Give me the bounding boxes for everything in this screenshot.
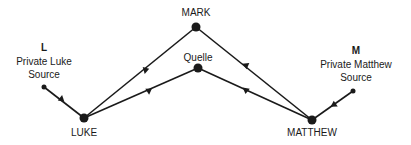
node-l-dot bbox=[42, 85, 47, 90]
node-m-sublabel-line2: Source bbox=[340, 72, 372, 84]
node-matthew-label: MATTHEW bbox=[287, 127, 337, 139]
node-luke-dot bbox=[80, 114, 89, 123]
edge-mark-luke bbox=[84, 27, 196, 118]
node-quelle-label: Quelle bbox=[184, 52, 213, 64]
node-matthew-dot bbox=[308, 116, 317, 125]
node-m-sublabel-line1: Private Matthew bbox=[320, 59, 392, 71]
arrow-mark-matthew-icon bbox=[242, 60, 251, 69]
node-m-label: M bbox=[352, 45, 360, 57]
edge-quelle-luke bbox=[84, 68, 198, 118]
node-mark-dot bbox=[192, 23, 201, 32]
node-quelle-dot bbox=[194, 64, 203, 73]
edge-mark-matthew bbox=[196, 27, 312, 120]
node-luke-label: LUKE bbox=[71, 127, 97, 139]
edge-quelle-matthew bbox=[198, 68, 312, 120]
edge-l-luke bbox=[44, 87, 84, 118]
node-m-dot bbox=[351, 89, 356, 94]
node-l-sublabel-line2: Source bbox=[28, 69, 60, 81]
node-mark-label: MARK bbox=[182, 7, 211, 19]
synoptic-diagram: MARK Quelle L Private Luke Source LUKE M… bbox=[0, 0, 411, 145]
arrow-quelle-matthew-icon bbox=[243, 85, 251, 94]
node-l-label: L bbox=[41, 42, 47, 54]
node-l-sublabel-line1: Private Luke bbox=[16, 56, 72, 68]
